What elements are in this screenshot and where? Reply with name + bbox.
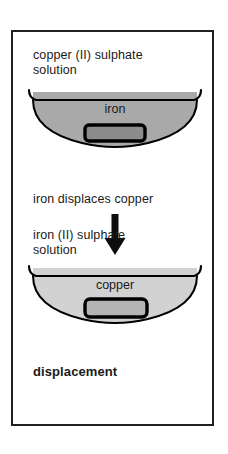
- iron-bar: [85, 125, 145, 141]
- bottom-metal-label: copper: [27, 278, 203, 292]
- beaker-before: iron: [27, 90, 203, 152]
- beaker-after: copper: [27, 266, 203, 328]
- displacement-diagram-card: copper (II) sulphate solution iron iron …: [11, 30, 214, 426]
- top-solution-label: copper (II) sulphate solution: [33, 48, 143, 77]
- copper-bar: [85, 299, 147, 317]
- beaker-before-graphic: [27, 90, 203, 152]
- top-metal-label: iron: [27, 102, 203, 116]
- reaction-label: iron displaces copper: [33, 192, 153, 207]
- summary-label: displacement: [33, 365, 117, 380]
- beaker-after-graphic: [27, 266, 203, 328]
- bottom-solution-label: iron (II) sulphate solution: [33, 228, 125, 257]
